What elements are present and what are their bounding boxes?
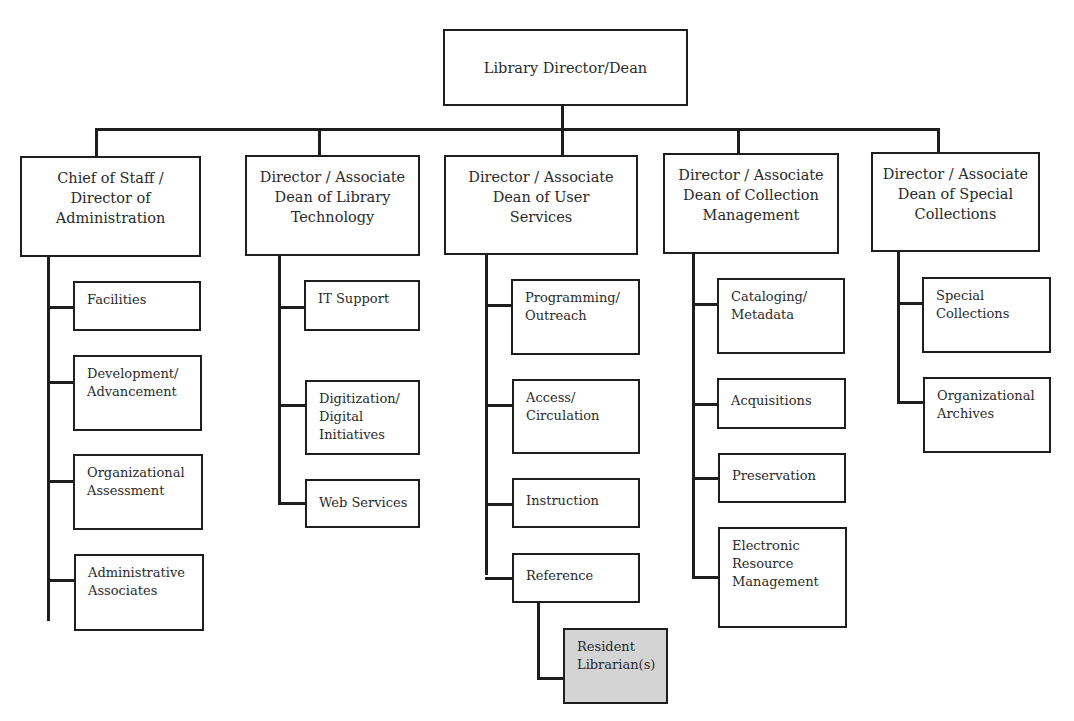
unit-label: Electronic Resource Management: [732, 538, 819, 589]
vline-d5: [897, 252, 900, 404]
unit-organizational-archives: Organizational Archives: [923, 377, 1051, 453]
connector-d4: [737, 128, 740, 156]
unit-web-services: Web Services: [305, 479, 420, 528]
unit-label: Preservation: [732, 468, 816, 483]
vline-d1: [47, 256, 50, 621]
unit-label: Acquisitions: [731, 393, 812, 408]
hline: [692, 576, 718, 579]
director-collection-management: Director / Associate Dean of Collection …: [663, 153, 839, 254]
hline: [692, 477, 718, 480]
hline: [47, 381, 74, 384]
unit-label: Programming/ Outreach: [525, 290, 620, 323]
hline: [278, 404, 306, 407]
vline-d2: [278, 256, 281, 504]
unit-label: Administrative Associates: [88, 565, 185, 598]
unit-development: Development/ Advancement: [73, 355, 202, 431]
connector-d2: [318, 128, 321, 156]
connector-d3: [561, 128, 564, 156]
unit-administrative-associates: Administrative Associates: [74, 554, 204, 631]
director-label: Chief of Staff / Director of Administrat…: [56, 168, 166, 255]
hline: [485, 304, 512, 307]
hline: [278, 306, 306, 309]
root-label: Library Director/Dean: [484, 60, 647, 76]
unit-cataloging-metadata: Cataloging/ Metadata: [717, 278, 845, 354]
root-connector: [561, 105, 564, 130]
director-label: Director / Associate Dean of User Servic…: [468, 167, 613, 253]
unit-programming-outreach: Programming/ Outreach: [511, 279, 640, 355]
unit-facilities: Facilities: [73, 281, 201, 331]
director-label: Director / Associate Dean of Collection …: [678, 165, 823, 252]
unit-reference: Reference: [512, 553, 640, 603]
hline: [485, 503, 512, 506]
unit-label: Digitization/ Digital Initiatives: [319, 391, 400, 442]
hline: [485, 404, 512, 407]
director-label: Director / Associate Dean of Special Col…: [883, 164, 1028, 250]
horizontal-bus: [95, 128, 940, 131]
unit-label: IT Support: [318, 291, 389, 306]
director-special-collections: Director / Associate Dean of Special Col…: [871, 152, 1040, 252]
unit-label: Cataloging/ Metadata: [731, 289, 807, 322]
unit-label: Resident Librarian(s): [577, 639, 655, 672]
hline: [47, 579, 74, 582]
director-label: Director / Associate Dean of Library Tec…: [260, 167, 405, 254]
hline: [485, 577, 512, 580]
unit-digitization: Digitization/ Digital Initiatives: [305, 380, 420, 455]
hline: [897, 401, 923, 404]
unit-label: Development/ Advancement: [87, 366, 178, 399]
hline: [47, 306, 74, 309]
director-user-services: Director / Associate Dean of User Servic…: [444, 155, 638, 255]
unit-label: Instruction: [526, 493, 599, 508]
unit-special-collections: Special Collections: [922, 277, 1051, 353]
hline: [537, 677, 564, 680]
unit-access-circulation: Access/ Circulation: [512, 379, 640, 454]
unit-label: Organizational Assessment: [87, 465, 185, 498]
unit-label: Web Services: [319, 495, 407, 510]
unit-resident-librarians: Resident Librarian(s): [563, 628, 668, 704]
vline-d3: [485, 255, 488, 575]
unit-acquisitions: Acquisitions: [717, 378, 846, 429]
hline: [47, 480, 74, 483]
unit-label: Special Collections: [936, 288, 1009, 321]
unit-preservation: Preservation: [718, 453, 846, 503]
unit-label: Reference: [526, 568, 593, 583]
unit-organizational-assessment: Organizational Assessment: [73, 454, 203, 530]
hline: [692, 303, 718, 306]
unit-label: Organizational Archives: [937, 388, 1035, 421]
hline: [278, 502, 306, 505]
unit-electronic-resource-management: Electronic Resource Management: [718, 527, 847, 628]
unit-label: Access/ Circulation: [526, 390, 599, 423]
vline-reference: [537, 603, 540, 680]
connector-d1: [95, 128, 98, 156]
hline: [897, 302, 923, 305]
director-technology: Director / Associate Dean of Library Tec…: [245, 155, 420, 256]
unit-it-support: IT Support: [304, 280, 420, 331]
hline: [692, 403, 718, 406]
unit-label: Facilities: [87, 292, 146, 307]
root-box: Library Director/Dean: [443, 29, 688, 106]
unit-instruction: Instruction: [512, 478, 640, 528]
director-administration: Chief of Staff / Director of Administrat…: [20, 156, 201, 257]
